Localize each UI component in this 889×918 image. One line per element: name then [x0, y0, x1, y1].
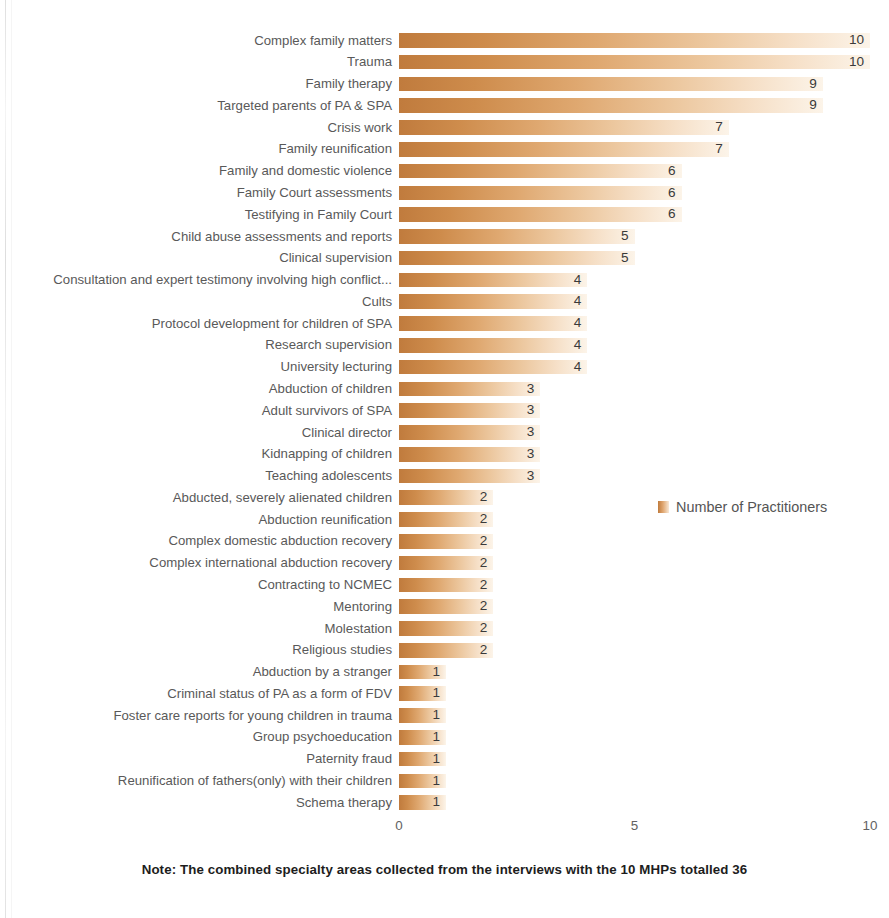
bar[interactable]: 3	[399, 447, 540, 462]
bar-value-label: 1	[433, 795, 441, 810]
bar-fill	[399, 164, 682, 179]
bar-value-label: 6	[668, 207, 676, 222]
bar-row: Protocol development for children of SPA…	[0, 313, 889, 335]
bar[interactable]: 7	[399, 120, 729, 135]
bar[interactable]: 3	[399, 469, 540, 484]
bar-row: Family and domestic violence6	[0, 160, 889, 182]
bar[interactable]: 2	[399, 643, 493, 658]
bar-fill	[399, 294, 587, 309]
bar-value-label: 5	[621, 229, 629, 244]
bar-row: Abduction of children3	[0, 378, 889, 400]
bar[interactable]: 1	[399, 795, 446, 810]
bar[interactable]: 4	[399, 360, 587, 375]
category-label: Molestation	[325, 618, 392, 640]
bar-fill	[399, 77, 823, 92]
category-label: Child abuse assessments and reports	[171, 226, 392, 248]
bar[interactable]: 2	[399, 621, 493, 636]
bar[interactable]: 4	[399, 273, 587, 288]
bar[interactable]: 9	[399, 77, 823, 92]
bar[interactable]: 3	[399, 382, 540, 397]
bar[interactable]: 2	[399, 534, 493, 549]
bar[interactable]: 2	[399, 490, 493, 505]
bar[interactable]: 2	[399, 578, 493, 593]
bar[interactable]: 2	[399, 599, 493, 614]
bar-fill	[399, 98, 823, 113]
bar[interactable]: 1	[399, 686, 446, 701]
category-label: Teaching adolescents	[265, 465, 392, 487]
bar-fill	[399, 120, 729, 135]
bar-value-label: 4	[574, 294, 582, 309]
bar-row: Trauma10	[0, 51, 889, 73]
bar-row: Family reunification7	[0, 138, 889, 160]
bar-fill	[399, 186, 682, 201]
bar-value-label: 2	[480, 643, 488, 658]
bar-fill	[399, 425, 540, 440]
category-label: Complex family matters	[254, 30, 392, 52]
bar[interactable]: 1	[399, 730, 446, 745]
bar[interactable]: 1	[399, 665, 446, 680]
bar-fill	[399, 33, 870, 48]
bar-fill	[399, 207, 682, 222]
bar-value-label: 2	[480, 599, 488, 614]
bar[interactable]: 4	[399, 294, 587, 309]
bar-value-label: 9	[809, 77, 817, 92]
bar-row: Schema therapy1	[0, 792, 889, 814]
bar-row: Adult survivors of SPA3	[0, 400, 889, 422]
bar[interactable]: 10	[399, 33, 870, 48]
bar[interactable]: 9	[399, 98, 823, 113]
bar[interactable]: 1	[399, 708, 446, 723]
bar[interactable]: 10	[399, 55, 870, 70]
category-label: Abducted, severely alienated children	[173, 487, 392, 509]
bar-value-label: 10	[849, 55, 864, 70]
category-label: Mentoring	[333, 596, 392, 618]
category-label: Protocol development for children of SPA	[152, 313, 392, 335]
bar-fill	[399, 229, 635, 244]
bar-fill	[399, 273, 587, 288]
bar[interactable]: 1	[399, 774, 446, 789]
bar-row: Reunification of fathers(only) with thei…	[0, 770, 889, 792]
bar-value-label: 2	[480, 490, 488, 505]
bar[interactable]: 4	[399, 338, 587, 353]
bar-value-label: 6	[668, 164, 676, 179]
x-axis-tick-label: 10	[863, 818, 878, 833]
bar[interactable]: 7	[399, 142, 729, 157]
category-label: Family therapy	[306, 73, 392, 95]
bar[interactable]: 4	[399, 316, 587, 331]
bar-row: Teaching adolescents3	[0, 465, 889, 487]
bar-value-label: 10	[849, 33, 864, 48]
bar-fill	[399, 469, 540, 484]
bar[interactable]: 5	[399, 229, 635, 244]
chart-legend: Number of Practitioners	[658, 496, 827, 518]
legend-label: Number of Practitioners	[676, 499, 827, 515]
bar-value-label: 1	[433, 774, 441, 789]
category-label: Clinical supervision	[279, 247, 392, 269]
bar-fill	[399, 360, 587, 375]
bar-value-label: 4	[574, 338, 582, 353]
bar-value-label: 7	[715, 142, 723, 157]
bar[interactable]: 5	[399, 251, 635, 266]
bar[interactable]: 6	[399, 186, 682, 201]
category-label: Clinical director	[302, 422, 392, 444]
bar-row: Complex domestic abduction recovery2	[0, 530, 889, 552]
bar[interactable]: 6	[399, 164, 682, 179]
bar[interactable]: 2	[399, 556, 493, 571]
bar[interactable]: 3	[399, 403, 540, 418]
bar[interactable]: 1	[399, 752, 446, 767]
bar[interactable]: 3	[399, 425, 540, 440]
category-label: Family reunification	[278, 138, 392, 160]
bar-row: Family Court assessments6	[0, 182, 889, 204]
bar-row: Foster care reports for young children i…	[0, 705, 889, 727]
category-label: University lecturing	[281, 356, 392, 378]
bar[interactable]: 6	[399, 207, 682, 222]
bar-value-label: 1	[433, 730, 441, 745]
category-label: Cults	[362, 291, 392, 313]
category-label: Kidnapping of children	[261, 443, 392, 465]
bar-row: Clinical director3	[0, 422, 889, 444]
category-label: Abduction by a stranger	[253, 661, 392, 683]
bar-fill	[399, 338, 587, 353]
bar[interactable]: 2	[399, 512, 493, 527]
category-label: Testifying in Family Court	[245, 204, 392, 226]
bar-value-label: 7	[715, 120, 723, 135]
bar-value-label: 3	[527, 403, 535, 418]
bar-value-label: 3	[527, 382, 535, 397]
